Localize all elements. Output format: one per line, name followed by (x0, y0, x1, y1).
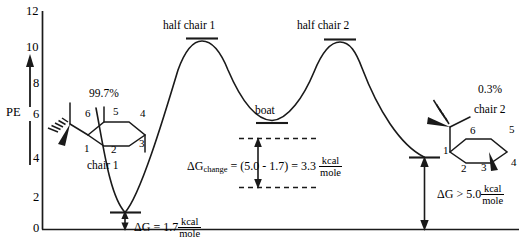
y-tick-6: 6 (33, 108, 39, 121)
chair-2-carbon-5: 5 (509, 124, 515, 135)
chair-1-percent-label: 99.7% (89, 88, 119, 100)
y-tick-2: 2 (33, 191, 39, 204)
boat-label: boat (255, 105, 275, 117)
dg-change-expression: (5.0 - 1.7) (240, 159, 288, 173)
dg-left-value: 1.7 (163, 220, 178, 234)
dg-change-annotation: ΔGchange = (5.0 - 1.7) = 3.3 kcalmole (187, 155, 342, 179)
y-tick-0: 0 (33, 222, 39, 235)
y-axis-label: PE (6, 106, 21, 119)
dg-right-unit-denominator: mole (481, 195, 504, 206)
chair-2-carbon-6: 6 (470, 125, 476, 136)
chair-2-name-label: chair 2 (474, 104, 506, 116)
dg-change-value: 3.3 (301, 159, 316, 173)
dg-right-value: 5.0 (466, 187, 481, 201)
dg-right-unit: kcalmole (481, 183, 504, 207)
dg-left-symbol: ΔG (134, 220, 150, 234)
chair-2-hashed-bond (434, 100, 450, 124)
y-tick-10: 10 (26, 41, 39, 54)
chair-1-wedge-bond (58, 124, 70, 146)
chair-1-name-label: chair 1 (87, 160, 119, 172)
chair-1-carbon-4: 4 (140, 108, 146, 119)
dg-left-arrow (121, 211, 128, 232)
chair-2-carbon-1: 1 (443, 145, 449, 156)
chair-2-c3-wedge-bond (489, 152, 498, 171)
dg-change-unit-denominator: mole (319, 167, 342, 178)
dg-left-unit-numerator: kcal (178, 216, 201, 228)
dg-right-annotation: ΔG > 5.0kcalmole (437, 183, 504, 207)
dg-right-arrow (420, 156, 428, 231)
dg-right-symbol: ΔG (437, 187, 453, 201)
y-tick-4: 4 (33, 152, 39, 165)
dg-change-unit: kcalmole (319, 155, 342, 179)
dg-left-annotation: ΔG = 1.7kcalmole (134, 216, 201, 240)
half-chair-2-label: half chair 2 (297, 20, 349, 32)
y-tick-8: 8 (33, 77, 39, 90)
dg-change-subscript: change (203, 164, 227, 174)
chair-2-carbon-2: 2 (461, 163, 467, 174)
dg-change-symbol: ΔG (187, 159, 203, 173)
dg-change-equals-2: = (291, 159, 298, 173)
chair-1-carbon-2: 2 (111, 144, 117, 155)
diagram-canvas (0, 0, 526, 246)
chair-2-structure (450, 117, 507, 163)
chair-1-carbon-6: 6 (85, 108, 91, 119)
chair-2-carbon-4: 4 (511, 157, 517, 168)
chair-1-structure (70, 103, 145, 152)
chair-1-carbon-3: 3 (139, 138, 145, 149)
chair-1-hashed-bond (48, 118, 68, 132)
dg-change-unit-numerator: kcal (319, 155, 342, 167)
chair-2-carbon-3: 3 (481, 162, 487, 173)
dg-right-unit-numerator: kcal (481, 183, 504, 195)
dg-left-unit-denominator: mole (178, 228, 201, 239)
dg-left-unit: kcalmole (178, 216, 201, 240)
energy-diagram-figure: 12 10 8 6 4 2 0 PE half chair 1 boat hal… (0, 0, 526, 246)
chair-1-carbon-1: 1 (84, 143, 90, 154)
y-tick-12: 12 (26, 5, 39, 18)
chair-1-carbon-5: 5 (113, 106, 119, 117)
half-chair-1-label: half chair 1 (163, 20, 215, 32)
chair-2-percent-label: 0.3% (478, 84, 502, 96)
